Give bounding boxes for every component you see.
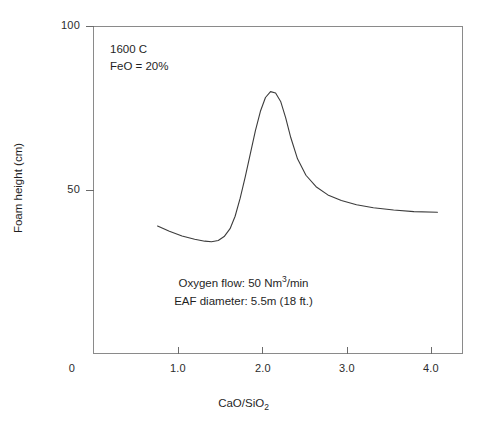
y-tick-label-100: 100: [48, 19, 80, 31]
y-axis-title: Foam height (cm): [12, 108, 24, 268]
chart-figure: 100 50 0 1.0 2.0 3.0 4.0 Foam height (cm…: [0, 0, 487, 435]
x-tick-label-1: 1.0: [158, 362, 198, 374]
annotation-oxygen-flow-prefix: Oxygen flow: 50 Nm: [178, 277, 282, 289]
y-tick-100: [86, 26, 94, 27]
x-tick-4: [431, 347, 432, 354]
annotation-oxygen-flow: Oxygen flow: 50 Nm3/min: [0, 270, 487, 292]
annotation-oxygen-flow-suffix: /min: [287, 277, 309, 289]
x-tick-label-3: 3.0: [327, 362, 367, 374]
x-tick-1: [178, 347, 179, 354]
x-tick-3: [347, 347, 348, 354]
annotation-temperature: 1600 C: [110, 41, 169, 58]
x-axis-title-subscript: 2: [264, 402, 269, 412]
annotation-conditions: 1600 C FeO = 20%: [110, 41, 169, 75]
x-tick-label-2: 2.0: [243, 362, 283, 374]
x-tick-label-0: 0: [52, 362, 92, 374]
annotation-eaf-diameter: EAF diameter: 5.5m (18 ft.): [0, 292, 487, 310]
annotation-feo: FeO = 20%: [110, 58, 169, 75]
y-tick-50: [86, 190, 94, 191]
y-tick-label-50: 50: [48, 183, 80, 195]
x-axis-title: CaO/SiO2: [0, 397, 487, 412]
x-tick-label-4: 4.0: [411, 362, 451, 374]
x-tick-2: [262, 347, 263, 354]
x-axis-title-text: CaO/SiO: [218, 397, 264, 409]
annotation-process-parameters: Oxygen flow: 50 Nm3/min EAF diameter: 5.…: [0, 270, 487, 310]
